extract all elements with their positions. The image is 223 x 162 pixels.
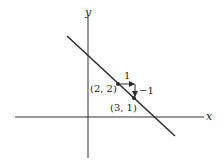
point-label-2-2: (2, 2) (90, 83, 117, 94)
y-axis-label: y (84, 6, 92, 19)
point-label-3-1: (3, 1) (110, 102, 137, 113)
rise-label: −1 (139, 85, 154, 96)
coordinate-diagram: x y 1 −1 (2, 2) (3, 1) (0, 0, 223, 162)
run-label: 1 (124, 70, 130, 81)
x-axis-label: x (206, 110, 213, 123)
point-3-1 (132, 96, 136, 100)
graph-line (67, 36, 175, 136)
